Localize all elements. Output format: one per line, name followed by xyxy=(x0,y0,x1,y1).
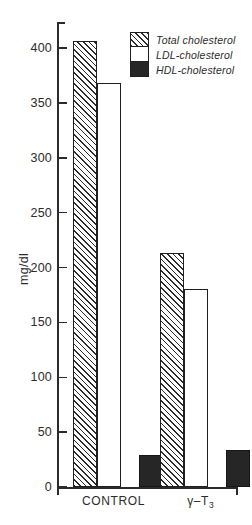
y-axis-tick-label: 300 xyxy=(6,151,52,165)
y-axis-tick-label: 350 xyxy=(6,96,52,110)
y-axis-tick-label: 0 xyxy=(6,480,52,494)
y-axis-tick xyxy=(59,47,67,49)
y-axis-tick-label: 400 xyxy=(6,41,52,55)
y-axis-tick xyxy=(59,157,67,159)
chart-legend: Total cholesterol LDL-cholesterol HDL-ch… xyxy=(130,32,250,78)
hatched-swatch xyxy=(131,33,148,47)
legend-label-total-cholesterol: Total cholesterol xyxy=(156,34,235,46)
y-axis-tick-label: 100 xyxy=(6,370,52,384)
y-axis-tick xyxy=(59,102,67,104)
bar xyxy=(97,83,121,487)
y-axis-tick-label: 50 xyxy=(6,425,52,439)
bar xyxy=(160,253,184,487)
y-axis-title: mg/dl xyxy=(17,239,31,299)
y-axis-tick xyxy=(59,322,67,324)
y-axis-line xyxy=(57,22,59,488)
legend-label-ldl-cholesterol: LDL-cholesterol xyxy=(156,49,233,61)
y-axis-top-cap xyxy=(57,22,65,24)
black-swatch xyxy=(131,62,148,76)
bar xyxy=(73,41,97,487)
y-axis-tick xyxy=(59,212,67,214)
cholesterol-bar-chart: 050100150200250300350400 mg/dl CONTROLγ–… xyxy=(0,0,252,525)
bar xyxy=(184,289,208,487)
y-axis-tick-label: 150 xyxy=(6,315,52,329)
legend-label-hdl-cholesterol: HDL-cholesterol xyxy=(156,64,234,76)
y-axis-tick xyxy=(59,377,67,379)
bar xyxy=(226,450,250,487)
x-axis-line xyxy=(57,487,238,489)
y-axis-tick xyxy=(59,431,67,433)
x-axis-category-label: γ–T3 xyxy=(136,494,252,510)
y-axis-tick-label: 250 xyxy=(6,206,52,220)
white-swatch xyxy=(131,47,148,61)
legend-swatch-box xyxy=(130,32,149,77)
y-axis-tick xyxy=(59,267,67,269)
